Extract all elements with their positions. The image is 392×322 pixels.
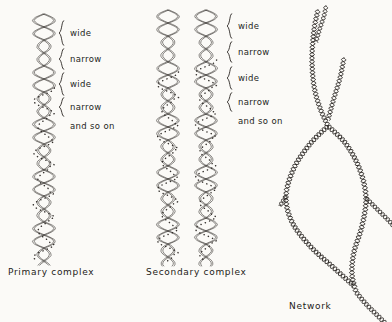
caption-primary-complex: Primary complex — [8, 268, 94, 277]
panel-network: Network — [280, 0, 392, 322]
caption-network: Network — [289, 302, 331, 311]
label-narrow-1: narrow — [70, 55, 102, 64]
panel-secondary-complex: wide narrow wide narrow and so on Second… — [140, 0, 280, 322]
label-wide-1: wide — [238, 22, 259, 31]
label-wide-1: wide — [70, 29, 91, 38]
label-narrow-2: narrow — [238, 98, 270, 107]
brace-wide-1 — [226, 13, 234, 43]
label-wide-2: wide — [70, 80, 91, 89]
label-and-so-on: and so on — [238, 117, 283, 126]
caption-secondary-complex: Secondary complex — [146, 268, 247, 277]
network-drawing — [280, 0, 392, 300]
brace-narrow-2 — [226, 92, 234, 116]
brace-narrow-1 — [58, 48, 66, 74]
label-wide-2: wide — [238, 74, 259, 83]
brace-wide-2 — [226, 66, 234, 94]
label-narrow-1: narrow — [238, 48, 270, 57]
scientific-diagram-figure: wide narrow wide narrow and so on Primar… — [0, 0, 392, 322]
brace-wide-2 — [58, 72, 66, 100]
brace-wide-1 — [58, 20, 66, 50]
label-and-so-on: and so on — [70, 122, 115, 131]
label-narrow-2: narrow — [70, 103, 102, 112]
primary-complex-helix-drawing — [0, 0, 140, 270]
brace-narrow-1 — [226, 41, 234, 67]
brace-narrow-2 — [58, 97, 66, 121]
panel-primary-complex: wide narrow wide narrow and so on Primar… — [0, 0, 140, 322]
secondary-complex-helix-drawing — [140, 0, 280, 270]
